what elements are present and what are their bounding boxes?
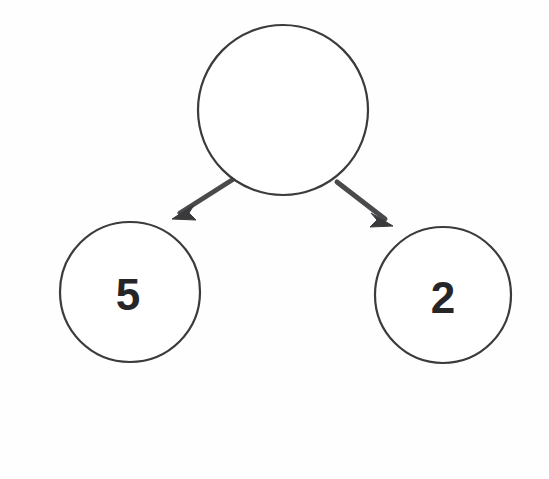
node-part-right[interactable]: 2 [375, 227, 511, 363]
arrow-to-right-part-shaft [337, 182, 385, 219]
node-whole-outline[interactable] [198, 25, 368, 195]
arrow-to-left-part-head [172, 205, 196, 220]
node-part-left[interactable]: 5 [60, 222, 200, 362]
node-part-left-label: 5 [116, 270, 140, 319]
node-whole[interactable] [198, 25, 368, 195]
arrow-to-right-part [337, 182, 393, 227]
node-part-right-label: 2 [431, 273, 455, 322]
number-bond-canvas: 5 2 [0, 0, 549, 479]
arrow-to-left-part-shaft [180, 180, 232, 213]
arrow-to-left-part [172, 180, 232, 220]
number-bond-diagram: 5 2 [0, 0, 549, 479]
